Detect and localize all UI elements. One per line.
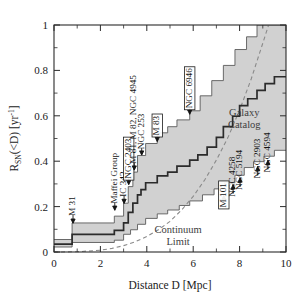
y-tick-label: 0.6 — [34, 110, 48, 122]
annotation-arrowhead — [140, 151, 144, 155]
text-label-line1: Continuum — [154, 224, 201, 235]
annotation-text: NGC 6946 — [184, 68, 194, 108]
x-tick-label: 8 — [237, 257, 243, 269]
y-tick-label: 0.4 — [34, 155, 48, 167]
annotation-label-group: M 31 — [67, 196, 77, 216]
annotation-m31: M 31 — [67, 196, 77, 223]
y-axis-title-text: RSN(<D) [yr-1] — [7, 105, 23, 171]
text-label-galaxy-catalog: GalaxyCatalog — [228, 107, 261, 130]
y-title-mid: (<D) [yr — [8, 115, 21, 154]
annotation-ngc6946: NGC 6946 — [184, 67, 195, 114]
x-tick-label: 6 — [190, 257, 196, 269]
annotation-ngc2903: NGC 2903 — [252, 138, 262, 178]
x-axis-title: Distance D [Mpc] — [128, 279, 211, 292]
chart-svg: M 31Maffei GroupIC 342,NGC 2403M 81, M 8… — [0, 0, 302, 300]
annotation-label-group: M 83 — [151, 114, 162, 137]
y-axis-title: RSN(<D) [yr-1] — [7, 105, 23, 171]
uncertainty-band — [54, 25, 286, 247]
annotation-label-group: NGC 2903 — [252, 138, 262, 178]
annotation-ngc253: NGC 253 — [136, 113, 146, 155]
supernova-rate-chart: M 31Maffei GroupIC 342,NGC 2403M 81, M 8… — [0, 0, 302, 300]
y-tick-label: 0.2 — [34, 201, 48, 213]
annotation-text: NGC 5194 — [234, 149, 244, 189]
annotation-label-group: NGC 6946 — [184, 67, 195, 110]
x-tick-label: 10 — [281, 257, 293, 269]
annotation-text: NGC 4594 — [262, 132, 272, 172]
annotation-ngc4594: NGC 4594 — [262, 132, 272, 172]
annotation-label-group: NGC 253 — [136, 113, 146, 149]
annotation-text: NGC 253 — [136, 113, 146, 149]
y-title-end: ] — [8, 105, 20, 109]
y-tick-label: 0.8 — [34, 64, 48, 76]
x-tick-label: 4 — [144, 257, 150, 269]
annotation-text: M 31 — [67, 196, 77, 216]
y-tick-label: 1 — [43, 19, 49, 31]
annotation-label-group: NGC 5194 — [234, 149, 244, 189]
y-tick-label: 0 — [43, 246, 49, 258]
x-tick-label: 0 — [51, 257, 57, 269]
annotation-text: M 83 — [151, 115, 161, 135]
annotation-m83: M 83 — [151, 114, 162, 141]
text-label-line2: Limit — [166, 236, 189, 247]
text-label-continuum-limit: ContinuumLimit — [154, 224, 201, 247]
x-tick-label: 2 — [98, 257, 104, 269]
annotation-text: NGC 2903 — [252, 138, 262, 178]
text-label-line2: Catalog — [228, 119, 261, 130]
right-mask — [286, 0, 302, 300]
text-label-line1: Galaxy — [229, 107, 260, 118]
annotation-label-group: NGC 4594 — [262, 132, 272, 172]
annotation-arrowhead — [113, 206, 117, 210]
annotation-ngc5194: NGC 5194 — [234, 149, 244, 189]
